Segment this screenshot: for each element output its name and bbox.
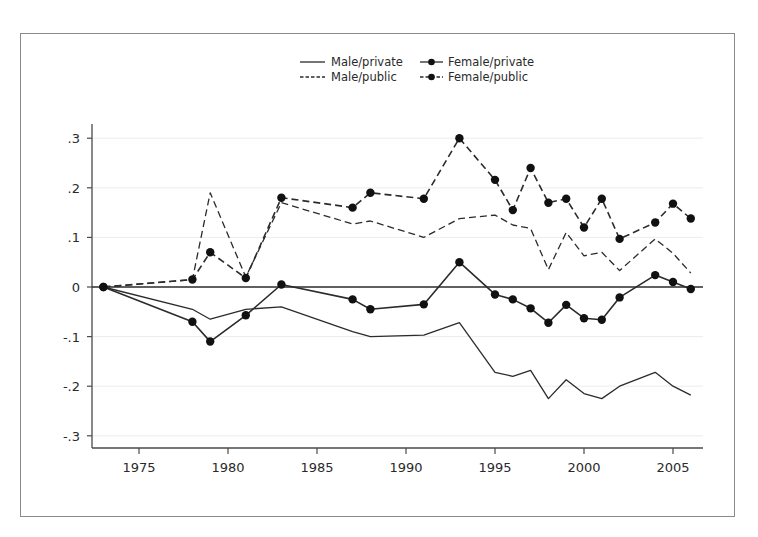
data-point-marker bbox=[526, 304, 534, 312]
data-point-marker bbox=[687, 214, 695, 222]
data-point-marker bbox=[277, 194, 285, 202]
data-point-marker bbox=[242, 274, 250, 282]
legend-label: Female/public bbox=[448, 70, 528, 84]
legend-label: Male/public bbox=[331, 70, 397, 84]
data-point-marker bbox=[491, 176, 499, 184]
data-point-marker bbox=[598, 195, 606, 203]
legend-label: Male/private bbox=[331, 55, 403, 69]
x-tick-label: 2005 bbox=[656, 460, 689, 475]
data-point-marker bbox=[277, 280, 285, 288]
legend-item-female-public: Female/public bbox=[420, 70, 528, 84]
data-point-marker bbox=[651, 218, 659, 226]
data-point-marker bbox=[348, 203, 356, 211]
data-point-marker bbox=[615, 235, 623, 243]
data-point-marker bbox=[455, 258, 463, 266]
axes bbox=[92, 124, 703, 448]
y-tick-label: -.2 bbox=[63, 379, 80, 394]
data-point-marker bbox=[242, 311, 250, 319]
series-female-private bbox=[99, 258, 695, 346]
data-point-marker bbox=[509, 206, 517, 214]
data-point-marker bbox=[455, 134, 463, 142]
data-point-marker bbox=[544, 319, 552, 327]
data-point-marker bbox=[544, 198, 552, 206]
data-point-marker bbox=[526, 164, 534, 172]
data-point-marker bbox=[580, 314, 588, 322]
x-tick-label: 1975 bbox=[122, 460, 155, 475]
data-point-marker bbox=[188, 318, 196, 326]
data-point-marker bbox=[598, 316, 606, 324]
y-axis-ticks: .3.2.10-.1-.2-.3 bbox=[63, 131, 92, 444]
x-tick-label: 1995 bbox=[478, 460, 511, 475]
data-point-marker bbox=[348, 295, 356, 303]
legend-marker-icon bbox=[428, 74, 435, 81]
legend-label: Female/private bbox=[448, 55, 534, 69]
series-line bbox=[103, 287, 690, 399]
data-point-marker bbox=[669, 278, 677, 286]
data-point-marker bbox=[669, 199, 677, 207]
data-point-marker bbox=[509, 295, 517, 303]
data-point-marker bbox=[651, 271, 659, 279]
series-female-public bbox=[99, 134, 695, 291]
series-male-private bbox=[103, 287, 690, 399]
data-point-marker bbox=[206, 337, 214, 345]
data-point-marker bbox=[188, 275, 196, 283]
x-tick-label: 1985 bbox=[300, 460, 333, 475]
y-tick-label: -.1 bbox=[63, 330, 80, 345]
series-line bbox=[103, 138, 690, 287]
data-point-marker bbox=[366, 305, 374, 313]
data-point-marker bbox=[562, 301, 570, 309]
data-point-marker bbox=[562, 195, 570, 203]
data-point-marker bbox=[615, 293, 623, 301]
y-tick-label: .3 bbox=[68, 131, 80, 146]
series-line bbox=[103, 193, 690, 287]
data-point-marker bbox=[366, 189, 374, 197]
legend-item-male-private: Male/private bbox=[300, 55, 403, 69]
data-point-marker bbox=[420, 300, 428, 308]
y-tick-label: -.3 bbox=[63, 429, 80, 444]
data-point-marker bbox=[580, 223, 588, 231]
legend: Male/private Female/private Male/public … bbox=[300, 55, 534, 84]
y-tick-label: .2 bbox=[68, 181, 80, 196]
legend-item-male-public: Male/public bbox=[300, 70, 397, 84]
x-axis-ticks: 1975198019851990199520002005 bbox=[122, 448, 689, 475]
data-point-marker bbox=[420, 195, 428, 203]
data-point-marker bbox=[99, 283, 107, 291]
x-tick-label: 1990 bbox=[389, 460, 422, 475]
x-tick-label: 1980 bbox=[211, 460, 244, 475]
data-point-marker bbox=[687, 285, 695, 293]
legend-item-female-private: Female/private bbox=[420, 55, 534, 69]
legend-marker-icon bbox=[428, 59, 435, 66]
series-male-public bbox=[103, 193, 690, 287]
y-tick-label: .1 bbox=[68, 230, 80, 245]
x-tick-label: 2000 bbox=[567, 460, 600, 475]
data-point-marker bbox=[206, 248, 214, 256]
series-lines bbox=[99, 134, 695, 399]
data-point-marker bbox=[491, 290, 499, 298]
line-chart: .3.2.10-.1-.2-.3 19751980198519901995200… bbox=[0, 0, 758, 537]
y-tick-label: 0 bbox=[72, 280, 80, 295]
series-line bbox=[103, 262, 690, 341]
